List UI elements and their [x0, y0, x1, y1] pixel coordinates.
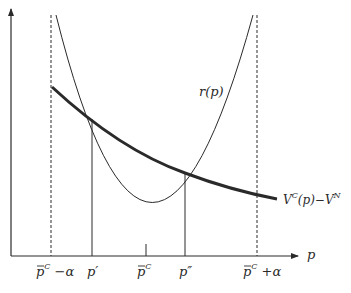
tick-label-p-double-prime: p″	[179, 264, 192, 279]
tick-label-p-prime: p′	[87, 264, 98, 279]
tick-label-left-bound: pC −α	[36, 262, 74, 279]
thick-curve-vc-vn	[52, 87, 277, 199]
svg-text:pC −α: pC −α	[36, 262, 74, 279]
parabola-label: r(p)	[199, 84, 224, 99]
thick-curve-label: VC(p)−VN	[283, 191, 342, 207]
svg-text:pC +α: pC +α	[243, 262, 281, 279]
svg-text:p″: p″	[179, 264, 192, 279]
tick-label-p-bar-c: pC	[137, 262, 151, 279]
diagram-canvas: r(p) VC(p)−VN p pC −α p′ pC p″ pC +α	[0, 0, 351, 293]
svg-text:pC: pC	[137, 262, 151, 279]
svg-text:p′: p′	[87, 264, 98, 279]
tick-label-right-bound: pC +α	[243, 262, 281, 279]
x-axis-label: p	[307, 247, 316, 262]
parabola-r-curve	[56, 15, 253, 203]
